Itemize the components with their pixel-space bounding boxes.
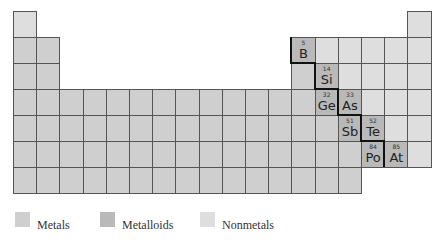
element-cell bbox=[106, 141, 130, 168]
element-cell bbox=[291, 141, 315, 168]
element-cell bbox=[13, 11, 37, 38]
element-cell bbox=[222, 89, 246, 116]
element-cell bbox=[315, 115, 339, 142]
metalloid-boundary-line bbox=[314, 62, 316, 89]
element-cell bbox=[59, 89, 83, 116]
atomic-number: 14 bbox=[316, 65, 338, 72]
element-cell bbox=[315, 37, 339, 64]
element-cell bbox=[268, 167, 292, 194]
metalloid-boundary-line bbox=[360, 140, 384, 142]
element-cell bbox=[59, 141, 83, 168]
element-cell bbox=[199, 89, 223, 116]
element-cell bbox=[83, 89, 107, 116]
element-cell bbox=[36, 63, 60, 90]
element-cell bbox=[315, 141, 339, 168]
legend-label: Metals bbox=[37, 218, 70, 233]
element-cell bbox=[59, 167, 83, 194]
element-cell-b: 5B bbox=[291, 37, 315, 64]
element-cell bbox=[361, 89, 385, 116]
element-cell bbox=[222, 141, 246, 168]
atomic-number: 85 bbox=[385, 143, 407, 150]
metalloid-boundary-line bbox=[360, 114, 362, 141]
element-cell bbox=[384, 115, 408, 142]
element-cell bbox=[83, 167, 107, 194]
legend-label: Nonmetals bbox=[222, 218, 274, 233]
element-cell bbox=[175, 167, 199, 194]
element-cell bbox=[338, 141, 362, 168]
element-cell bbox=[291, 63, 315, 90]
element-cell bbox=[175, 89, 199, 116]
element-cell bbox=[129, 167, 153, 194]
element-cell bbox=[407, 11, 431, 38]
metals-swatch bbox=[15, 212, 30, 227]
metalloids-swatch bbox=[100, 212, 115, 227]
periodic-table-grid: 5B14Si32Ge33As51Sb52Te84Po85At bbox=[0, 0, 440, 200]
element-cell bbox=[291, 89, 315, 116]
element-cell-as: 33As bbox=[338, 89, 362, 116]
atomic-number: 84 bbox=[362, 143, 384, 150]
atomic-number: 52 bbox=[362, 117, 384, 124]
element-cell bbox=[199, 115, 223, 142]
legend-label: Metalloids bbox=[122, 218, 173, 233]
metalloid-boundary-line bbox=[314, 88, 338, 90]
element-cell bbox=[13, 141, 37, 168]
atomic-number: 51 bbox=[339, 117, 361, 124]
element-cell bbox=[83, 141, 107, 168]
element-cell-ge: 32Ge bbox=[315, 89, 339, 116]
element-cell bbox=[361, 37, 385, 64]
element-cell bbox=[245, 141, 269, 168]
element-cell bbox=[152, 115, 176, 142]
element-cell bbox=[13, 167, 37, 194]
element-cell bbox=[36, 115, 60, 142]
element-cell bbox=[13, 89, 37, 116]
element-cell bbox=[129, 89, 153, 116]
metalloid-boundary-line bbox=[290, 62, 314, 64]
element-symbol: Ge bbox=[316, 98, 338, 113]
element-cell bbox=[106, 89, 130, 116]
metalloid-boundary-line bbox=[290, 37, 292, 64]
element-cell bbox=[199, 141, 223, 168]
element-cell bbox=[175, 141, 199, 168]
element-cell bbox=[129, 141, 153, 168]
element-cell-po: 84Po bbox=[361, 141, 385, 168]
element-symbol: Sb bbox=[339, 124, 361, 139]
element-cell bbox=[13, 63, 37, 90]
element-cell bbox=[36, 89, 60, 116]
element-symbol: Si bbox=[316, 72, 338, 87]
element-cell bbox=[338, 37, 362, 64]
element-cell bbox=[106, 115, 130, 142]
legend: Metals Metalloids Nonmetals bbox=[0, 200, 440, 248]
element-cell bbox=[36, 141, 60, 168]
element-cell bbox=[59, 115, 83, 142]
element-symbol: Po bbox=[362, 150, 384, 165]
element-cell bbox=[268, 115, 292, 142]
element-cell bbox=[384, 37, 408, 64]
atomic-number: 32 bbox=[316, 91, 338, 98]
element-symbol: At bbox=[385, 150, 407, 165]
element-cell bbox=[222, 115, 246, 142]
element-cell bbox=[407, 37, 431, 64]
element-cell-at: 85At bbox=[384, 141, 408, 168]
element-cell bbox=[13, 115, 37, 142]
element-cell bbox=[36, 37, 60, 64]
element-cell bbox=[83, 115, 107, 142]
element-symbol: Te bbox=[362, 124, 384, 139]
element-cell bbox=[36, 167, 60, 194]
element-cell bbox=[268, 89, 292, 116]
element-symbol: As bbox=[339, 98, 361, 113]
metalloid-boundary-line bbox=[383, 140, 385, 167]
atomic-number: 33 bbox=[339, 91, 361, 98]
element-cell bbox=[361, 63, 385, 90]
element-cell bbox=[407, 63, 431, 90]
element-cell bbox=[407, 141, 431, 168]
element-cell bbox=[268, 141, 292, 168]
element-cell bbox=[222, 167, 246, 194]
metalloid-boundary-line bbox=[337, 114, 361, 116]
element-cell bbox=[245, 89, 269, 116]
element-cell bbox=[291, 115, 315, 142]
atomic-number: 5 bbox=[292, 39, 314, 46]
element-symbol: B bbox=[292, 46, 314, 61]
element-cell bbox=[245, 115, 269, 142]
element-cell-te: 52Te bbox=[361, 115, 385, 142]
element-cell bbox=[13, 37, 37, 64]
